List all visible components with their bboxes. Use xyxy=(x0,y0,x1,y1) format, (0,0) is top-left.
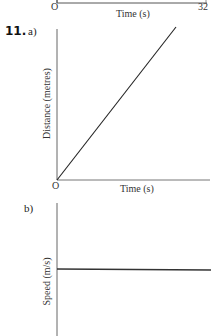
part-b-label: b) xyxy=(24,202,33,214)
prev-x-end-label: 32 xyxy=(198,1,208,12)
graph-lines xyxy=(0,0,219,336)
graph-a-origin-label: O xyxy=(52,180,59,191)
graph-a-distance-line xyxy=(57,27,176,180)
graph-b-y-axis-label: Speed (m/s) xyxy=(41,252,52,312)
question-number: 11. xyxy=(5,24,26,38)
part-a-label: a) xyxy=(28,25,37,37)
graph-b-speed-line xyxy=(57,269,211,270)
graph-a-x-axis-label: Time (s) xyxy=(120,183,154,194)
prev-x-axis-label: Time (s) xyxy=(116,8,150,19)
prev-origin-label: O xyxy=(51,1,58,12)
graph-a-y-axis-label: Distance (metres) xyxy=(41,66,52,142)
